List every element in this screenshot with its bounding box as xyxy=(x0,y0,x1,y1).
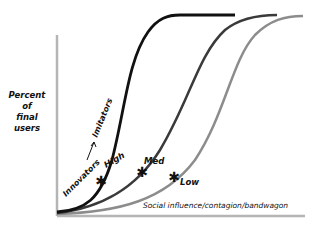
diffusion-diagram: Percent of final users ✱ ✱ ✱ High Med Lo… xyxy=(0,0,317,228)
y-label-line-3: final xyxy=(2,112,52,123)
label-low: Low xyxy=(180,177,199,187)
y-label-line-4: users xyxy=(2,123,52,134)
marker-low-star-icon: ✱ xyxy=(168,169,180,185)
y-label-line-2: of xyxy=(2,101,52,112)
x-axis-label: Social influence/contagion/bandwagon xyxy=(143,201,288,210)
curve-med xyxy=(57,15,277,213)
curve-high xyxy=(57,15,235,212)
label-med: Med xyxy=(144,156,165,166)
marker-med-star-icon: ✱ xyxy=(136,164,148,180)
arrow-line xyxy=(87,142,94,160)
y-label-line-1: Percent xyxy=(2,90,52,101)
imitators-label: Imitators xyxy=(91,97,115,139)
y-axis-label: Percent of final users xyxy=(2,90,52,134)
marker-high-star-icon: ✱ xyxy=(95,173,107,189)
